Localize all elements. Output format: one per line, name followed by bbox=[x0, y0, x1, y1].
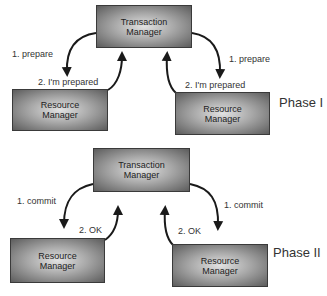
box-label-line2: Manager bbox=[42, 110, 78, 120]
box-label-line1: Resource bbox=[203, 104, 242, 114]
commit-arrow-right bbox=[190, 184, 218, 226]
box-label-line2: Manager bbox=[202, 266, 238, 276]
resource-manager-right-phase1: Resource Manager bbox=[175, 92, 270, 135]
box-label-line1: Transaction bbox=[121, 17, 168, 27]
prepared-label-left: 2. I'm prepared bbox=[38, 77, 98, 87]
box-label-line1: Resource bbox=[41, 100, 80, 110]
transaction-manager-phase1: Transaction Manager bbox=[96, 5, 192, 48]
box-label-line1: Resource bbox=[201, 256, 240, 266]
box-label-line2: Manager bbox=[205, 114, 241, 124]
resource-manager-right-phase2: Resource Manager bbox=[172, 244, 268, 287]
box-label-line2: Manager bbox=[40, 261, 76, 271]
prepared-arrow-right bbox=[167, 56, 176, 93]
commit-arrow-left bbox=[64, 184, 93, 224]
ok-arrow-right bbox=[165, 210, 173, 245]
box-label-line2: Manager bbox=[126, 27, 162, 37]
ok-arrow-left bbox=[105, 210, 118, 240]
prepare-label-left: 1. prepare bbox=[12, 49, 53, 59]
prepared-arrow-left bbox=[108, 56, 122, 90]
commit-label-left: 1. commit bbox=[17, 196, 56, 206]
prepared-label-right: 2. I'm prepared bbox=[185, 80, 245, 90]
box-label-line1: Transaction bbox=[118, 160, 165, 170]
prepare-arrow-left bbox=[67, 33, 96, 72]
prepare-label-right: 1. prepare bbox=[229, 54, 270, 64]
resource-manager-left-phase1: Resource Manager bbox=[12, 89, 108, 131]
prepare-arrow-right bbox=[192, 33, 220, 74]
phase1-label: Phase I bbox=[279, 95, 323, 110]
phase2-label: Phase II bbox=[273, 245, 321, 260]
box-label-line1: Resource bbox=[38, 251, 77, 261]
commit-label-right: 1. commit bbox=[224, 200, 263, 210]
ok-label-right: 2. OK bbox=[178, 226, 201, 236]
transaction-manager-phase2: Transaction Manager bbox=[93, 148, 190, 192]
ok-label-left: 2. OK bbox=[79, 225, 102, 235]
box-label-line2: Manager bbox=[124, 170, 160, 180]
resource-manager-left-phase2: Resource Manager bbox=[10, 238, 105, 283]
